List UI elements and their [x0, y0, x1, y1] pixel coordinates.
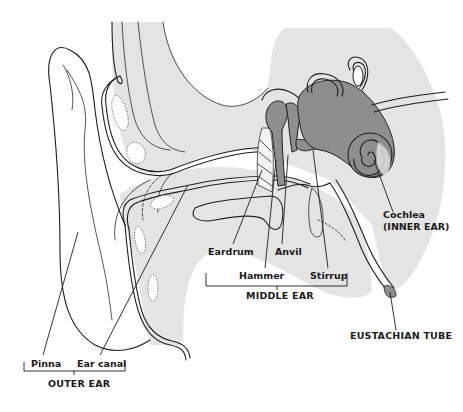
- label-outer-ear: OUTER EAR: [48, 378, 111, 389]
- label-stirrup: Stirrup: [310, 270, 348, 281]
- label-eustachian-tube: EUSTACHIAN TUBE: [350, 330, 452, 341]
- label-inner-ear: (INNER EAR): [383, 221, 449, 232]
- label-ear-canal: Ear canal: [77, 358, 126, 369]
- label-anvil: Anvil: [275, 246, 302, 257]
- label-cochlea: Cochlea: [383, 209, 425, 220]
- label-middle-ear: MIDDLE EAR: [246, 290, 314, 301]
- label-hammer: Hammer: [239, 270, 285, 281]
- label-pinna: Pinna: [31, 358, 61, 369]
- label-eardrum: Eardrum: [208, 246, 254, 257]
- ear-anatomy-diagram: Pinna Ear canal Eardrum Anvil Hammer Sti…: [0, 0, 463, 412]
